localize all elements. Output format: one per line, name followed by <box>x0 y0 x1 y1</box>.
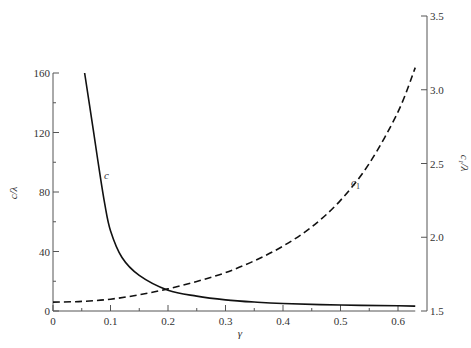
x-tick-label: 0.6 <box>391 315 405 327</box>
x-tick-label: 0 <box>50 315 56 327</box>
y-left-tick-label: 80 <box>39 186 51 198</box>
curve-label-c: c <box>104 169 109 181</box>
y-right-tick-label: 1.5 <box>430 305 444 317</box>
x-tick-label: 0.3 <box>219 315 233 327</box>
axes: 00.10.20.30.40.50.6040801201601.52.02.53… <box>34 10 445 327</box>
y-left-tick-label: 40 <box>39 246 51 258</box>
curve-c <box>85 73 416 306</box>
x-tick-label: 0.4 <box>276 315 290 327</box>
y-left-tick-label: 120 <box>34 127 51 139</box>
x-tick-label: 0.2 <box>161 315 175 327</box>
y-right-tick-label: 3.0 <box>430 84 444 96</box>
y-right-tick-label: 2.0 <box>430 231 444 243</box>
x-tick-label: 0.5 <box>334 315 348 327</box>
y-right-tick-label: 3.5 <box>430 10 444 22</box>
x-tick-label: 0.1 <box>104 315 118 327</box>
y-left-tick-label: 0 <box>45 305 51 317</box>
x-axis-label: γ <box>238 327 243 339</box>
y-left-tick-label: 160 <box>34 67 51 79</box>
y-axis-left-label: c/λ <box>7 186 19 199</box>
curve-c1 <box>53 68 415 303</box>
y-axis-right-label: c₁/λ <box>459 155 471 172</box>
chart: 00.10.20.30.40.50.6040801201601.52.02.53… <box>0 0 471 348</box>
y-right-tick-label: 2.5 <box>430 158 444 170</box>
curves <box>53 68 415 306</box>
